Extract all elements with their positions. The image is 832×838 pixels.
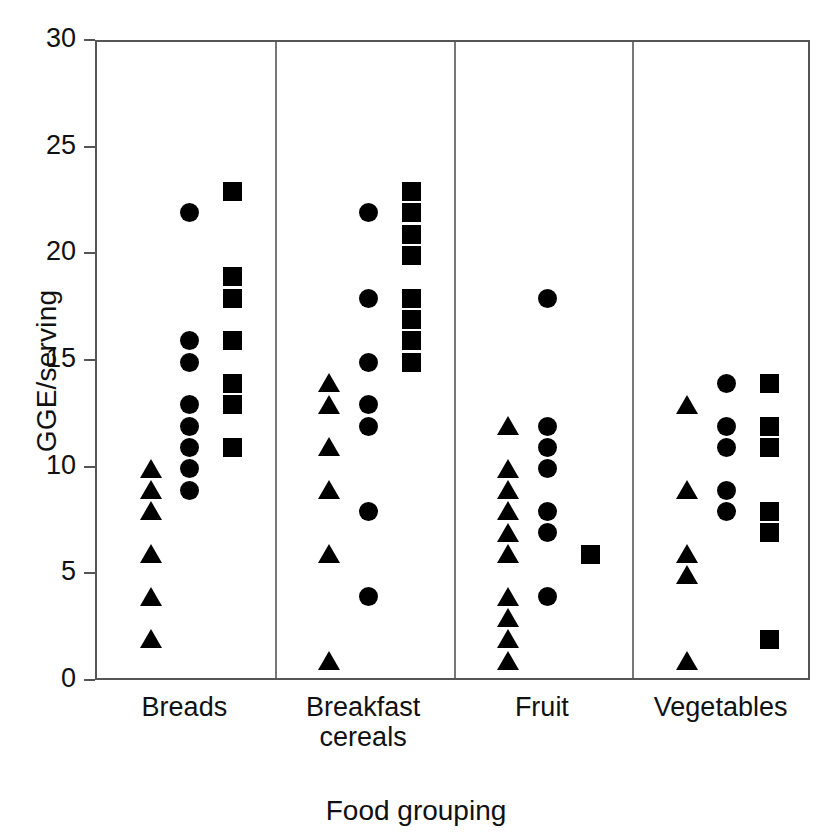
data-point-square [760,502,779,521]
data-point-triangle [497,651,519,670]
data-point-square [223,289,242,308]
data-point-triangle [676,565,698,584]
data-point-circle [359,353,378,372]
group-divider [275,42,277,678]
data-point-square [402,353,421,372]
y-tick-label: 30 [16,25,76,52]
x-tick-label-line: Vegetables [611,692,831,722]
data-point-triangle [497,523,519,542]
y-tick-label: 10 [16,452,76,479]
x-tick-label-vegetables: Vegetables [611,692,831,722]
data-point-square [760,523,779,542]
y-tick-mark [84,39,95,41]
data-point-triangle [497,501,519,520]
data-point-square [402,246,421,265]
data-point-triangle [676,395,698,414]
data-point-triangle [497,587,519,606]
y-tick-label: 15 [16,345,76,372]
data-point-circle [717,374,736,393]
data-point-triangle [140,501,162,520]
data-point-square [402,289,421,308]
y-tick-label: 0 [16,665,76,692]
data-point-circle [538,289,557,308]
data-point-triangle [318,395,340,414]
data-point-square [223,395,242,414]
data-point-circle [180,395,199,414]
data-point-square [402,310,421,329]
data-point-triangle [497,459,519,478]
data-point-circle [180,417,199,436]
data-point-circle [359,417,378,436]
y-tick-mark [84,359,95,361]
data-point-triangle [318,480,340,499]
y-tick-mark [84,679,95,681]
data-point-square [402,331,421,350]
data-point-circle [359,395,378,414]
data-point-square [223,267,242,286]
data-point-triangle [318,651,340,670]
data-point-circle [717,438,736,457]
data-point-square [223,374,242,393]
data-point-triangle [497,629,519,648]
data-point-triangle [140,629,162,648]
data-point-square [402,225,421,244]
group-divider [454,42,456,678]
data-point-circle [717,502,736,521]
data-point-triangle [318,373,340,392]
data-point-triangle [497,416,519,435]
y-tick-mark [84,572,95,574]
data-point-triangle [497,480,519,499]
data-point-triangle [140,459,162,478]
data-point-circle [717,417,736,436]
data-point-circle [717,481,736,500]
data-point-square [760,374,779,393]
data-point-square [760,630,779,649]
data-point-circle [180,459,199,478]
y-tick-mark [84,252,95,254]
data-point-circle [180,438,199,457]
data-point-triangle [318,437,340,456]
chart-figure: GGE/serving 051015202530 BreadsBreakfast… [0,0,832,838]
data-point-triangle [497,544,519,563]
data-point-square [223,182,242,201]
plot-area [95,40,810,680]
data-point-circle [180,331,199,350]
data-point-circle [180,353,199,372]
data-point-triangle [676,651,698,670]
data-point-circle [180,481,199,500]
x-axis-title: Food grouping [0,795,832,827]
data-point-circle [538,459,557,478]
data-point-square [760,417,779,436]
data-point-circle [180,203,199,222]
y-tick-label: 25 [16,132,76,159]
data-point-triangle [140,544,162,563]
data-point-triangle [676,480,698,499]
data-point-circle [538,523,557,542]
data-point-square [223,438,242,457]
data-point-circle [359,502,378,521]
data-point-triangle [676,544,698,563]
data-point-triangle [318,544,340,563]
data-point-triangle [497,608,519,627]
y-tick-mark [84,146,95,148]
data-point-circle [359,587,378,606]
data-point-square [402,182,421,201]
y-tick-label: 20 [16,238,76,265]
y-tick-mark [84,466,95,468]
data-point-square [760,438,779,457]
data-point-triangle [140,587,162,606]
data-point-circle [538,438,557,457]
data-point-triangle [140,480,162,499]
data-point-circle [359,203,378,222]
data-point-square [223,331,242,350]
group-divider [632,42,634,678]
data-point-circle [538,417,557,436]
x-tick-label-line: cereals [253,722,473,752]
data-point-circle [359,289,378,308]
data-point-circle [538,587,557,606]
data-point-square [581,545,600,564]
y-tick-label: 5 [16,558,76,585]
data-point-square [402,203,421,222]
data-point-circle [538,502,557,521]
